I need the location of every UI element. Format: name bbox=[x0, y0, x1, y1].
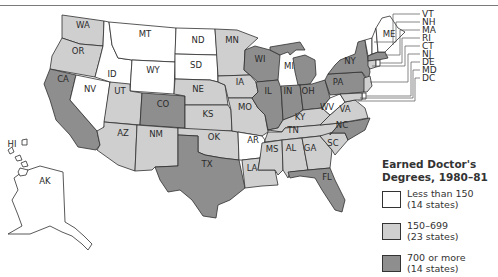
label-ks: KS bbox=[203, 109, 214, 119]
label-me: ME bbox=[383, 29, 396, 39]
label-va: VA bbox=[339, 104, 350, 114]
label-nd: ND bbox=[192, 35, 205, 45]
callout-dc: DC bbox=[422, 73, 435, 83]
label-mt: MT bbox=[139, 29, 152, 39]
label-ak: AK bbox=[39, 176, 51, 186]
label-wa: WA bbox=[76, 20, 90, 30]
label-ky: KY bbox=[295, 112, 306, 122]
legend-label: 700 or more bbox=[407, 252, 466, 263]
state-ct[interactable] bbox=[368, 60, 376, 69]
label-sd: SD bbox=[190, 60, 202, 70]
label-tn: TN bbox=[286, 125, 299, 135]
label-co: CO bbox=[157, 99, 170, 109]
state-nj[interactable] bbox=[364, 76, 372, 92]
state-fl[interactable] bbox=[288, 168, 345, 212]
legend-label: 150–699 bbox=[407, 220, 459, 231]
legend-title-line1: Earned Doctor's bbox=[382, 158, 498, 171]
label-wi: WI bbox=[255, 54, 266, 64]
label-al: AL bbox=[286, 143, 297, 153]
label-ia: IA bbox=[236, 77, 245, 87]
label-nm: NM bbox=[149, 129, 163, 139]
label-la: LA bbox=[247, 163, 258, 173]
label-ca: CA bbox=[57, 74, 69, 84]
label-il: IL bbox=[264, 86, 272, 96]
label-pa: PA bbox=[333, 77, 344, 87]
legend-count: (14 states) bbox=[407, 199, 474, 210]
label-ny: NY bbox=[344, 56, 356, 66]
legend: Earned Doctor's Degrees, 1980–81 Less th… bbox=[382, 158, 498, 277]
label-fl: FL bbox=[322, 172, 332, 182]
legend-swatch-dark-gray bbox=[382, 255, 401, 272]
label-ut: UT bbox=[114, 86, 126, 96]
legend-item-mid: 150–699 (23 states) bbox=[382, 220, 498, 248]
legend-title-line2: Degrees, 1980–81 bbox=[382, 171, 498, 184]
legend-label: Less than 150 bbox=[407, 188, 474, 199]
label-az: AZ bbox=[117, 128, 129, 138]
label-in: IN bbox=[284, 86, 293, 96]
state-pa[interactable] bbox=[325, 72, 366, 95]
label-wv: WV bbox=[320, 102, 334, 112]
label-wy: WY bbox=[146, 65, 160, 75]
label-mo: MO bbox=[238, 102, 252, 112]
legend-count: (14 states) bbox=[407, 263, 466, 274]
legend-item-high: 700 or more (14 states) bbox=[382, 252, 498, 277]
label-sc: SC bbox=[327, 138, 338, 148]
label-hi: HI bbox=[8, 139, 17, 149]
label-ms: MS bbox=[266, 144, 279, 154]
legend-item-low: Less than 150 (14 states) bbox=[382, 188, 498, 216]
label-id: ID bbox=[107, 69, 117, 79]
label-tx: TX bbox=[200, 159, 212, 169]
state-mt[interactable] bbox=[109, 22, 176, 62]
label-ne: NE bbox=[192, 84, 204, 94]
label-oh: OH bbox=[301, 86, 314, 96]
legend-count: (23 states) bbox=[407, 231, 459, 242]
legend-title: Earned Doctor's Degrees, 1980–81 bbox=[382, 158, 498, 184]
legend-swatch-white bbox=[382, 191, 401, 208]
label-ga: GA bbox=[304, 143, 317, 153]
label-or: OR bbox=[72, 46, 85, 56]
label-mn: MN bbox=[225, 35, 239, 45]
label-mi: MI bbox=[284, 61, 294, 71]
legend-swatch-light-gray bbox=[382, 223, 401, 240]
label-ok: OK bbox=[208, 132, 221, 142]
label-ar: AR bbox=[247, 135, 259, 145]
label-nv: NV bbox=[84, 84, 96, 94]
label-nc: NC bbox=[336, 120, 348, 130]
